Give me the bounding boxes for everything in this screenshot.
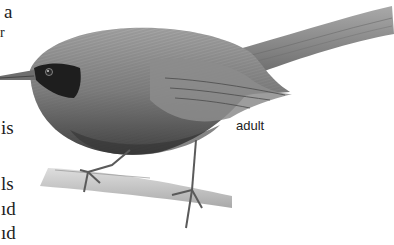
bird-illustration — [0, 0, 394, 245]
eye — [46, 69, 53, 76]
beak — [0, 70, 36, 80]
adult-label: adult — [236, 118, 264, 133]
branch — [40, 168, 232, 208]
